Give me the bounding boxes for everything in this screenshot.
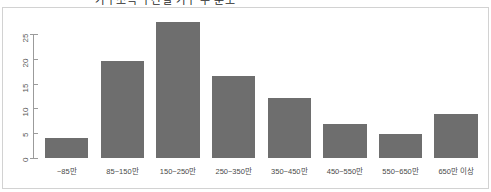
chart-title-strip: 가구소득 구간별 가구 수 분포 [0, 0, 491, 7]
x-axis-tick-label: 450~550만 [317, 165, 373, 176]
x-axis-tick-label: 150~250만 [150, 165, 206, 176]
bar [323, 124, 366, 158]
bar [379, 134, 422, 158]
bar [101, 61, 144, 158]
bar [434, 114, 477, 158]
bars-layer [3, 8, 490, 190]
chart-frame: 0510152025 ~85만85~150만150~250만250~350만35… [2, 7, 489, 189]
x-axis-tick-label: 250~350만 [206, 165, 262, 176]
bar [156, 22, 199, 158]
x-axis-tick-label: 550~650만 [373, 165, 429, 176]
bar [45, 138, 88, 158]
bar [212, 76, 255, 158]
x-axis-tick-label: 650만 이상 [428, 165, 484, 176]
page-title: 가구소득 구간별 가구 수 분포 [95, 0, 235, 7]
x-axis-tick-label: ~85만 [39, 165, 95, 176]
chart-screenshot: 가구소득 구간별 가구 수 분포 0510152025 ~85만85~150만1… [0, 0, 491, 192]
plot-area: 0510152025 ~85만85~150만150~250만250~350만35… [3, 8, 490, 190]
bar [268, 98, 311, 158]
x-axis-tick-label: 350~450만 [262, 165, 318, 176]
x-axis-tick-label: 85~150만 [95, 165, 151, 176]
